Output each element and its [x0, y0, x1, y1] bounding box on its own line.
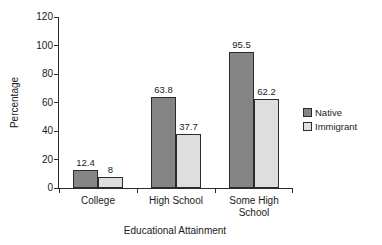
y-tick-mark — [54, 188, 58, 189]
plot-area: 02040608010012012.48College63.837.7High … — [58, 17, 293, 189]
category-label-some-high-school: Some High School — [215, 195, 293, 219]
y-tick-label: 100 — [25, 41, 53, 51]
y-tick-label: 40 — [25, 126, 53, 136]
y-axis-title: Percentage — [9, 17, 20, 188]
y-tick-mark — [54, 102, 58, 103]
x-axis-title: Educational Attainment — [58, 225, 292, 236]
bar-value-immigrant-some-high-school: 62.2 — [239, 87, 294, 97]
y-tick-mark — [54, 45, 58, 46]
legend-label-native: Native — [315, 107, 342, 118]
bar-native-some-high-school — [229, 52, 254, 188]
bar-immigrant-some-high-school — [254, 99, 279, 188]
legend-swatch-native — [303, 108, 312, 117]
bar-native-high-school — [151, 97, 176, 188]
x-tick-mark — [59, 188, 60, 193]
y-tick-label: 20 — [25, 155, 53, 165]
bar-value-immigrant-high-school: 37.7 — [161, 122, 216, 132]
legend: NativeImmigrant — [303, 107, 357, 135]
legend-entry-native: Native — [303, 107, 357, 118]
legend-entry-immigrant: Immigrant — [303, 121, 357, 132]
y-tick-label: 80 — [25, 69, 53, 79]
x-tick-mark — [292, 188, 293, 193]
chart-figure: Percentage 02040608010012012.48College63… — [0, 0, 382, 245]
category-label-high-school: High School — [137, 195, 215, 207]
y-tick-label: 0 — [25, 183, 53, 193]
category-label-college: College — [59, 195, 137, 207]
y-tick-mark — [54, 131, 58, 132]
bar-value-native-high-school: 63.8 — [136, 85, 191, 95]
y-tick-mark — [54, 17, 58, 18]
bar-value-immigrant-college: 8 — [83, 165, 138, 175]
y-tick-mark — [54, 74, 58, 75]
x-tick-mark — [215, 188, 216, 193]
bar-value-native-some-high-school: 95.5 — [214, 40, 269, 50]
legend-swatch-immigrant — [303, 122, 312, 131]
bar-immigrant-high-school — [176, 134, 201, 188]
x-tick-mark — [137, 188, 138, 193]
y-tick-label: 60 — [25, 98, 53, 108]
legend-label-immigrant: Immigrant — [315, 121, 357, 132]
y-tick-label: 120 — [25, 12, 53, 22]
bar-immigrant-college — [98, 177, 123, 188]
